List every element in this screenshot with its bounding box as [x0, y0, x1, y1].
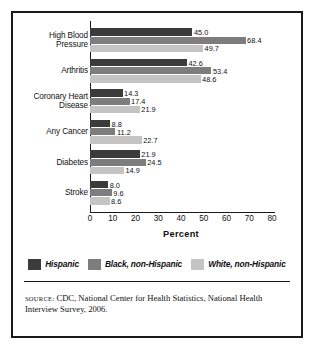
- bar: [90, 189, 112, 196]
- bar: [90, 197, 110, 204]
- bar: [90, 37, 246, 44]
- legend-label: Black, non-Hispanic: [105, 259, 182, 269]
- legend-item: White, non-Hispanic: [191, 259, 286, 270]
- bar: [90, 159, 146, 166]
- bar-row: 48.6: [90, 75, 272, 82]
- bar-row: 21.9: [90, 106, 272, 113]
- bar-row: 8.6: [90, 197, 272, 204]
- legend-swatch: [28, 259, 41, 270]
- bar: [90, 98, 130, 105]
- bar-row: 8.0: [90, 181, 272, 188]
- category-label: Any Cancer: [15, 127, 88, 136]
- bar-value-label: 21.9: [140, 105, 156, 114]
- bar-row: 42.6: [90, 59, 272, 66]
- bar-row: 11.2: [90, 128, 272, 135]
- source-note: SOURCE: CDC, National Center for Health …: [25, 293, 287, 316]
- bar-row: 21.9: [90, 150, 272, 157]
- bar-value-label: 68.4: [246, 36, 262, 45]
- bar-row: 53.4: [90, 67, 272, 74]
- category-label: High BloodPressure: [15, 31, 88, 50]
- bar: [90, 67, 211, 74]
- x-tick-label: 60: [222, 214, 231, 223]
- bar-row: 8.8: [90, 120, 272, 127]
- category-label: Stroke: [15, 188, 88, 197]
- bar: [90, 120, 110, 127]
- x-tick-label: 70: [245, 214, 254, 223]
- category-label-line: Disease: [15, 101, 88, 110]
- x-tick-label: 30: [154, 214, 163, 223]
- category-label: Coronary HeartDisease: [15, 92, 88, 111]
- category-label-line: Any Cancer: [15, 127, 88, 136]
- bar-value-label: 42.6: [187, 58, 203, 67]
- category-label-line: Diabetes: [15, 158, 88, 167]
- category-label-line: Coronary Heart: [15, 92, 88, 101]
- x-tick-label: 50: [199, 214, 208, 223]
- bar-row: 14.9: [90, 167, 272, 174]
- x-tick-label: 40: [176, 214, 185, 223]
- bar-row: 9.6: [90, 189, 272, 196]
- x-tick-label: 10: [108, 214, 117, 223]
- category-label: Arthritis: [15, 66, 88, 75]
- bar-row: 22.7: [90, 136, 272, 143]
- bar-row: 49.7: [90, 45, 272, 52]
- bar-value-label: 22.7: [142, 135, 158, 144]
- source-note-label: SOURCE:: [25, 295, 54, 302]
- bar: [90, 136, 142, 143]
- value-axis-line: [90, 212, 275, 213]
- bar-value-label: 48.6: [201, 74, 217, 83]
- bar: [90, 89, 123, 96]
- bar-value-label: 11.2: [115, 127, 130, 136]
- legend-divider: [24, 281, 290, 282]
- bar: [90, 75, 201, 82]
- bar-row: 17.4: [90, 98, 272, 105]
- legend-label: White, non-Hispanic: [208, 259, 286, 269]
- bar-value-label: 49.7: [203, 44, 219, 53]
- bar: [90, 28, 192, 35]
- x-tick-label: 0: [88, 214, 93, 223]
- value-axis-ticks: 01020304050607080: [90, 214, 272, 228]
- legend-swatch: [88, 259, 101, 270]
- category-label-line: Arthritis: [15, 66, 88, 75]
- bars-region: 45.068.449.742.653.448.614.317.421.98.81…: [90, 25, 272, 208]
- category-axis-labels: High BloodPressureArthritisCoronary Hear…: [15, 25, 88, 208]
- bar-row: 24.5: [90, 159, 272, 166]
- bar-value-label: 24.5: [146, 158, 162, 167]
- bar-row: 68.4: [90, 37, 272, 44]
- chart-legend: HispanicBlack, non-HispanicWhite, non-Hi…: [13, 251, 301, 277]
- bar-value-label: 8.6: [110, 196, 122, 205]
- category-label-line: Pressure: [15, 40, 88, 49]
- chart-plot-area: High BloodPressureArthritisCoronary Hear…: [13, 13, 301, 229]
- bar: [90, 167, 124, 174]
- legend-label: Hispanic: [45, 259, 79, 269]
- category-label-line: High Blood: [15, 31, 88, 40]
- legend-swatch: [191, 259, 204, 270]
- category-label-line: Stroke: [15, 188, 88, 197]
- bar: [90, 181, 108, 188]
- bar-value-label: 14.9: [124, 166, 140, 175]
- figure-panel: High BloodPressureArthritisCoronary Hear…: [11, 11, 303, 338]
- bar: [90, 45, 203, 52]
- bar-row: 45.0: [90, 28, 272, 35]
- bar-value-label: 45.0: [192, 28, 208, 37]
- legend-item: Hispanic: [28, 259, 79, 270]
- source-note-text: CDC, National Center for Health Statisti…: [25, 293, 262, 314]
- bar: [90, 59, 187, 66]
- bar: [90, 106, 140, 113]
- x-tick-label: 80: [267, 214, 276, 223]
- legend-item: Black, non-Hispanic: [88, 259, 182, 270]
- category-label: Diabetes: [15, 158, 88, 167]
- x-axis-title: Percent: [90, 229, 272, 239]
- bar-row: 14.3: [90, 89, 272, 96]
- bar: [90, 150, 140, 157]
- bar: [90, 128, 115, 135]
- x-tick-label: 20: [131, 214, 140, 223]
